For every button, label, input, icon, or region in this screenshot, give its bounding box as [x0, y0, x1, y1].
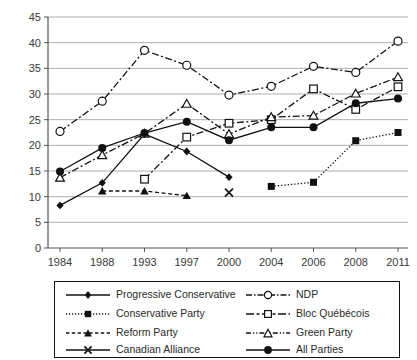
data-point: [351, 89, 360, 97]
y-axis-tick-label: 35: [29, 62, 41, 74]
series-line: [271, 133, 398, 187]
y-axis-tick-label: 15: [29, 165, 41, 177]
data-point: [310, 85, 318, 93]
legend-key-conservative-party: [65, 307, 111, 321]
data-point: [352, 137, 359, 144]
data-point: [183, 118, 191, 126]
y-axis-tick-labels: 051015202530354045: [29, 11, 41, 254]
series-canadian-alliance: [225, 189, 233, 197]
legend-key-all-parties: [245, 343, 291, 357]
data-point: [183, 61, 191, 69]
series-reform-party: [98, 187, 191, 199]
legend-key-bloc-quebecois: [245, 307, 291, 321]
data-point: [140, 187, 148, 194]
data-point: [183, 148, 190, 156]
data-point: [141, 175, 149, 183]
series-conservative-party: [268, 129, 402, 190]
x-axis-tick-label: 2004: [259, 256, 283, 268]
chart-legend: Progressive Conservative NDP Conservativ…: [54, 281, 400, 358]
data-point: [56, 168, 64, 176]
legend-key-canadian-alliance: [65, 343, 111, 357]
data-point: [394, 37, 402, 45]
data-point: [98, 97, 106, 105]
legend-key-ndp: [245, 288, 291, 302]
data-point: [225, 91, 233, 99]
line-chart: 051015202530354045 198419881993199720002…: [0, 0, 417, 275]
data-point: [394, 83, 402, 91]
data-point: [310, 179, 317, 186]
y-axis-tick-label: 20: [29, 139, 41, 151]
data-point: [183, 133, 191, 141]
x-axis-tick-label: 1993: [132, 256, 156, 268]
legend-label-all-parties: All Parties: [296, 340, 343, 359]
chart-page: 051015202530354045 198419881993199720002…: [0, 0, 417, 360]
series-line: [60, 41, 398, 131]
data-point: [182, 99, 191, 107]
legend-item-all-parties[interactable]: All Parties: [245, 340, 343, 359]
data-point: [56, 127, 64, 135]
x-axis-tick-label: 2000: [217, 256, 241, 268]
legend-item-conservative-party[interactable]: Conservative Party: [65, 304, 205, 323]
legend-item-canadian-alliance[interactable]: Canadian Alliance: [65, 340, 200, 359]
x-axis-tick-label: 1988: [90, 256, 114, 268]
legend-key-green-party: [245, 326, 291, 340]
data-point: [225, 136, 233, 144]
data-series-layer: [56, 37, 403, 209]
data-point: [268, 183, 275, 190]
legend-key-reform-party: [65, 326, 111, 340]
series-line: [60, 134, 229, 205]
chart-svg: 051015202530354045 198419881993199720002…: [0, 0, 417, 275]
legend-label-bloc-quebecois: Bloc Québécois: [296, 304, 370, 323]
legend-label-conservative-party: Conservative Party: [116, 304, 205, 323]
legend-item-bloc-quebecois[interactable]: Bloc Québécois: [245, 304, 370, 323]
data-point: [98, 144, 106, 152]
data-point: [394, 73, 403, 81]
data-point: [141, 46, 149, 54]
y-axis-tick-label: 45: [29, 11, 41, 23]
legend-label-canadian-alliance: Canadian Alliance: [116, 340, 200, 359]
y-axis-tick-label: 5: [35, 216, 41, 228]
data-point: [225, 173, 232, 181]
data-point: [352, 68, 360, 76]
y-axis-tick-label: 10: [29, 191, 41, 203]
legend-label-progressive-conservative: Progressive Conservative: [116, 285, 236, 304]
data-point: [395, 129, 402, 136]
y-axis-tick-label: 0: [35, 242, 41, 254]
legend-item-ndp[interactable]: NDP: [245, 285, 318, 304]
data-point: [225, 189, 233, 197]
y-axis-tick-label: 40: [29, 37, 41, 49]
legend-label-ndp: NDP: [296, 285, 318, 304]
y-axis-tick-label: 25: [29, 114, 41, 126]
y-axis-tick-label: 30: [29, 88, 41, 100]
x-axis-tick-label: 2008: [344, 256, 368, 268]
series-progressive-conservative: [56, 130, 232, 209]
data-point: [267, 82, 275, 90]
x-axis-tick-label: 1997: [175, 256, 199, 268]
data-point: [352, 99, 360, 107]
data-point: [267, 123, 275, 131]
data-point: [310, 123, 318, 131]
data-point: [310, 62, 318, 70]
x-axis-tick-label: 2011: [386, 256, 410, 268]
data-point: [394, 95, 402, 103]
x-axis-tick-label: 2006: [301, 256, 325, 268]
legend-key-progressive-conservative: [65, 288, 111, 302]
series-bloc-qu-b-cois: [141, 83, 402, 183]
x-axis-tick-label: 1984: [48, 256, 72, 268]
data-point: [98, 151, 107, 159]
legend-item-progressive-conservative[interactable]: Progressive Conservative: [65, 285, 236, 304]
x-axis-tick-labels: 198419881993199720002004200620082011: [48, 256, 410, 268]
data-point: [56, 201, 63, 209]
data-point: [225, 119, 233, 127]
data-point: [141, 129, 149, 137]
